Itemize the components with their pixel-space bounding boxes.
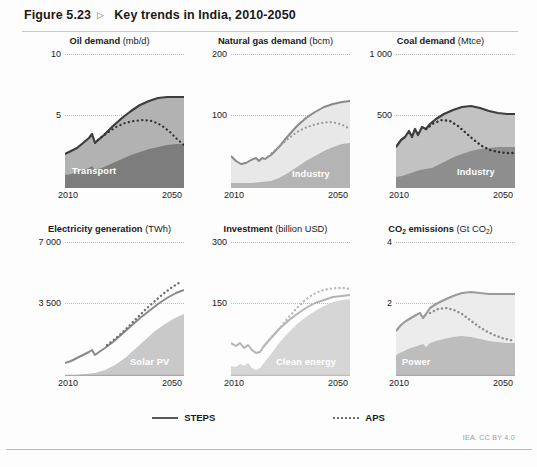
chart-legend: STEPS APS	[0, 412, 537, 423]
panel-title-unit: (bcm)	[309, 36, 333, 46]
x-tick-start: 2010	[224, 378, 244, 388]
figure-number: Figure 5.23	[24, 8, 91, 22]
panel-title-natural-gas: Natural gas demand (bcm)	[188, 36, 363, 46]
x-tick-start: 2010	[389, 378, 409, 388]
x-tick-end: 2050	[162, 190, 182, 200]
panel-title-strong: Electricity generation	[48, 224, 143, 234]
y-tick-top: 7 000	[21, 237, 61, 247]
plot-area-natural-gas	[231, 85, 350, 188]
panel-title-unit: (Mtce)	[458, 36, 484, 46]
series-tag-industry: Industry	[292, 169, 330, 179]
x-tick-end: 2050	[493, 190, 513, 200]
gridline-top	[396, 54, 515, 55]
panel-title-strong: Oil demand	[69, 36, 120, 46]
x-tick-start: 2010	[389, 190, 409, 200]
gridline-top	[65, 54, 184, 55]
x-tick-start: 2010	[224, 190, 244, 200]
x-tick-start: 2010	[58, 190, 78, 200]
gridline-top	[231, 242, 350, 243]
panel-title-co2: CO2 emissions (Gt CO2)	[353, 224, 528, 234]
figure-title: Key trends in India, 2010-2050	[114, 8, 296, 22]
series-tag-clean-energy: Clean energy	[276, 357, 336, 367]
panel-title-unit: (Gt CO2)	[457, 224, 493, 234]
y-tick-top: 10	[21, 49, 61, 59]
panel-title-oil-demand: Oil demand (mb/d)	[22, 36, 197, 46]
figure-page: Figure 5.23 ▷ Key trends in India, 2010-…	[0, 0, 537, 467]
panel-title-coal: Coal demand (Mtce)	[353, 36, 528, 46]
chart-panel-oil-demand: Oil demand (mb/d) 10 5 Transport	[22, 36, 197, 226]
credit-text: IEA. CC BY 4.0	[463, 434, 515, 441]
series-tag-solar-pv: Solar PV	[130, 357, 169, 367]
panel-title-strong: Coal demand	[397, 36, 455, 46]
y-tick-mid: 5	[21, 110, 61, 120]
y-tick-top: 4	[352, 237, 392, 247]
panel-title-unit: (billion USD)	[275, 224, 327, 234]
legend-item-steps: STEPS	[152, 412, 215, 423]
legend-label-aps: APS	[365, 412, 385, 423]
panel-title-electricity: Electricity generation (TWh)	[22, 224, 197, 234]
chart-svg-natural-gas	[231, 85, 350, 188]
gridline-top	[396, 242, 515, 243]
chart-panel-electricity-generation: Electricity generation (TWh) 7 000 3 500…	[22, 224, 197, 414]
y-tick-mid: 500	[352, 110, 392, 120]
y-tick-top: 1 000	[352, 49, 392, 59]
chart-svg-coal	[396, 85, 515, 188]
x-tick-end: 2050	[328, 378, 348, 388]
plot-area-coal	[396, 85, 515, 188]
chart-panel-coal-demand: Coal demand (Mtce) 1 000 500 Industry 20…	[353, 36, 528, 226]
solid-line-icon	[152, 417, 178, 419]
y-tick-top: 200	[187, 49, 227, 59]
chart-panel-investment: Investment (billion USD) 300 150 Clean e…	[188, 224, 363, 414]
y-tick-mid: 2	[352, 298, 392, 308]
chart-panel-natural-gas-demand: Natural gas demand (bcm) 200 100 Industr…	[188, 36, 363, 226]
x-tick-end: 2050	[493, 378, 513, 388]
legend-label-steps: STEPS	[184, 412, 215, 423]
header-divider	[22, 31, 518, 32]
gridline-top	[65, 242, 184, 243]
dotted-line-icon	[333, 417, 359, 419]
footer-divider	[6, 449, 532, 450]
panel-title-investment: Investment (billion USD)	[188, 224, 363, 234]
y-tick-mid: 150	[187, 298, 227, 308]
triangle-marker-icon: ▷	[97, 10, 104, 20]
chart-panel-co2-emissions: CO2 emissions (Gt CO2) 4 2 Power 2010 20…	[353, 224, 528, 414]
panel-title-strong: Investment	[224, 224, 273, 234]
legend-item-aps: APS	[333, 412, 385, 423]
panel-title-unit: (mb/d)	[123, 36, 150, 46]
y-tick-mid: 100	[187, 110, 227, 120]
x-tick-end: 2050	[162, 378, 182, 388]
y-tick-top: 300	[187, 237, 227, 247]
x-tick-start: 2010	[58, 378, 78, 388]
series-tag-transport: Transport	[72, 166, 116, 176]
series-tag-power: Power	[402, 357, 431, 367]
x-tick-end: 2050	[328, 190, 348, 200]
panel-title-strong: CO2 emissions	[388, 224, 454, 234]
panel-title-unit: (TWh)	[145, 224, 171, 234]
panel-title-strong: Natural gas demand	[218, 36, 307, 46]
gridline-top	[231, 54, 350, 55]
series-tag-industry: Industry	[457, 167, 495, 177]
figure-header: Figure 5.23 ▷ Key trends in India, 2010-…	[24, 8, 296, 22]
y-tick-mid: 3 500	[21, 298, 61, 308]
